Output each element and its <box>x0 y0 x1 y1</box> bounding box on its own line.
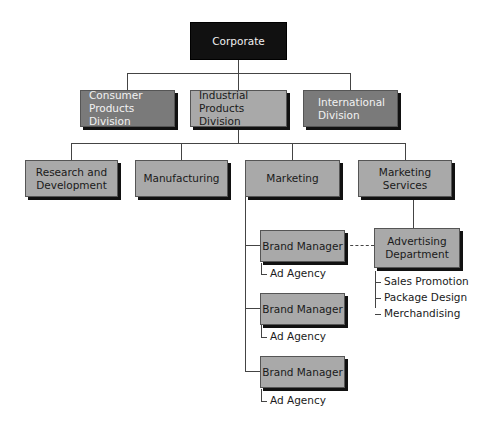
connector <box>292 143 293 160</box>
connector <box>261 389 262 401</box>
connector <box>238 60 239 74</box>
connector <box>245 197 246 372</box>
node-label: Advertising Department <box>385 235 449 261</box>
node-label: Marketing Services <box>379 166 431 192</box>
connector <box>413 197 414 228</box>
node-brand-manager: Brand Manager <box>260 230 345 262</box>
connector <box>261 401 267 402</box>
connector <box>127 73 351 74</box>
connector <box>261 274 267 275</box>
ad-agency-label: Ad Agency <box>270 394 326 406</box>
ad-agency-label: Ad Agency <box>270 267 326 279</box>
node-label: Brand Manager <box>262 366 343 379</box>
node-marketing-services: Marketing Services <box>358 160 452 197</box>
connector <box>127 73 128 90</box>
ad-agency-label: Ad Agency <box>270 330 326 342</box>
node-consumer-products: Consumer Products Division <box>80 90 175 127</box>
node-label: Corporate <box>212 35 265 48</box>
node-industrial-products: Industrial Products Division <box>190 90 287 127</box>
connector <box>245 371 260 372</box>
sales-promotion-label: Sales Promotion <box>384 275 469 287</box>
merchandising-label: Merchandising <box>384 307 460 319</box>
connector <box>261 325 262 337</box>
connector <box>238 73 239 90</box>
node-corporate: Corporate <box>190 22 287 60</box>
node-advertising-department: Advertising Department <box>374 228 460 268</box>
node-research-development: Research and Development <box>25 160 118 197</box>
connector <box>350 73 351 90</box>
node-brand-manager: Brand Manager <box>260 356 345 388</box>
connector <box>245 308 260 309</box>
connector <box>375 282 381 283</box>
dotted-connector <box>345 245 374 246</box>
connector <box>71 143 406 144</box>
node-international: International Division <box>303 90 398 127</box>
node-label: Brand Manager <box>262 303 343 316</box>
node-label: International Division <box>318 96 385 122</box>
node-label: Research and Development <box>36 166 107 192</box>
connector <box>238 127 239 143</box>
node-label: Industrial Products Division <box>199 89 286 128</box>
connector <box>261 263 262 274</box>
connector <box>71 143 72 160</box>
node-label: Consumer Products Division <box>89 89 174 128</box>
node-manufacturing: Manufacturing <box>135 160 228 197</box>
node-label: Marketing <box>266 172 318 185</box>
node-label: Brand Manager <box>262 240 343 253</box>
connector <box>261 337 267 338</box>
package-design-label: Package Design <box>384 291 467 303</box>
node-marketing: Marketing <box>245 160 340 197</box>
connector <box>245 245 260 246</box>
connector <box>375 271 376 308</box>
connector <box>375 314 381 315</box>
connector <box>405 143 406 160</box>
connector <box>375 298 381 299</box>
node-label: Manufacturing <box>143 172 219 185</box>
connector <box>181 143 182 160</box>
node-brand-manager: Brand Manager <box>260 293 345 325</box>
